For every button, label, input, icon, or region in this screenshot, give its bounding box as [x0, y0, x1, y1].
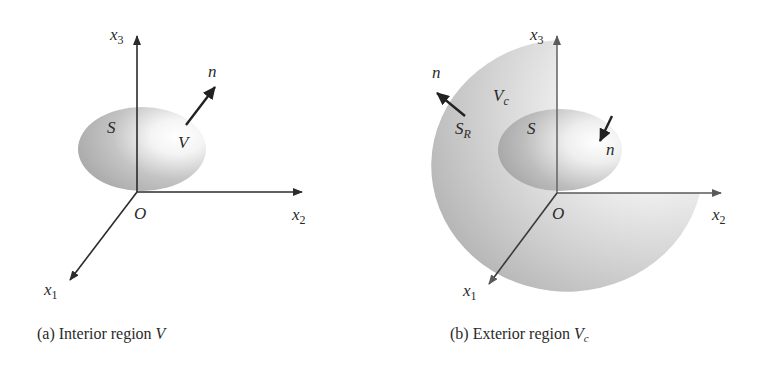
x1-label: x1 [43, 280, 58, 302]
x3-label: x3 [109, 25, 124, 47]
inner-normal-label: n [606, 140, 615, 159]
surface-label: S [527, 119, 536, 138]
normal-label: n [208, 62, 217, 81]
x3-label: x3 [529, 25, 544, 47]
origin-label: O [552, 204, 564, 223]
outer-normal-label: n [432, 63, 441, 82]
x2-label: x2 [711, 205, 726, 227]
figure-canvas: x3 n S V O x2 x1 (a) Interior region V x… [0, 0, 761, 365]
panel-a-interior-region: x3 n S V O x2 x1 (a) Interior region V [37, 25, 306, 343]
caption-a: (a) Interior region V [37, 325, 168, 343]
x2-label: x2 [291, 205, 306, 227]
x1-label: x1 [462, 281, 477, 303]
normal-arrow-icon [186, 87, 215, 125]
caption-b: (b) Exterior region Vc [450, 325, 589, 344]
origin-label: O [134, 204, 146, 223]
surface-label: S [107, 118, 116, 137]
panel-b-exterior-region: x3 n Vc SR S n O x2 x1 (b) Exterior regi… [431, 20, 725, 344]
x1-axis [70, 192, 137, 280]
